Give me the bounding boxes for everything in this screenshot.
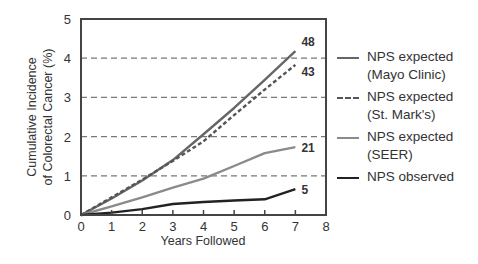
legend-label: NPS observed [367,168,454,186]
series-lines [81,51,295,215]
legend-swatch-icon [337,177,359,179]
end-label: 43 [301,65,315,79]
legend-label: NPS expected(Mayo Clinic) [367,48,453,84]
legend-swatch-icon [337,137,359,139]
y-tick-label: 3 [64,90,71,105]
legend-swatch-icon [337,97,359,99]
legend-item: NPS expected(SEER) [337,128,454,164]
x-tick-label: 6 [261,219,268,234]
legend-swatch-icon [337,57,359,59]
legend-item: NPS observed [337,168,454,186]
end-label: 48 [301,35,315,49]
legend-item: NPS expected(Mayo Clinic) [337,48,454,84]
series-line [81,147,295,215]
x-axis-title: Years Followed [160,234,245,248]
y-tick-label: 1 [64,169,71,184]
series-line [81,51,295,215]
series-line [81,65,295,215]
end-label: 5 [301,183,308,197]
x-tick-label: 3 [169,219,176,234]
end-label: 21 [301,141,315,155]
x-tick-label: 1 [108,219,115,234]
y-tick-label: 0 [64,208,71,223]
legend-label: NPS expected(St. Mark's) [367,88,453,124]
svg-text:Cumulative Incidence: Cumulative Incidence [25,57,39,177]
gridlines [81,58,326,176]
y-tick-label: 2 [64,130,71,145]
svg-text:of Colorectal Cancer (%): of Colorectal Cancer (%) [41,49,55,186]
legend-item: NPS expected(St. Mark's) [337,88,454,124]
series-line [81,189,295,215]
y-tick-label: 5 [64,12,71,27]
y-tick-label: 4 [64,51,71,66]
legend: NPS expected(Mayo Clinic)NPS expected(St… [337,48,454,190]
x-tick-label: 4 [200,219,207,234]
x-tick-label: 0 [77,219,84,234]
x-tick-label: 5 [231,219,238,234]
x-tick-label: 8 [322,219,329,234]
x-tick-label: 7 [292,219,299,234]
y-axis-title: Cumulative Incidence of Colorectal Cance… [25,49,55,186]
end-labels: 4843215 [301,35,315,197]
plot-frame [81,19,326,215]
x-tick-label: 2 [139,219,146,234]
legend-label: NPS expected(SEER) [367,128,453,164]
